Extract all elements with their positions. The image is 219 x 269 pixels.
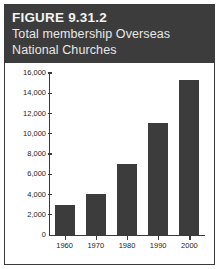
bar-series [49, 73, 205, 235]
y-axis-tick-label: 4,000 [27, 190, 46, 200]
x-axis-tick-mark [96, 236, 97, 240]
x-axis-tick-label: 2000 [169, 241, 209, 251]
y-axis-tick-label: 12,000 [23, 109, 46, 119]
bar [55, 205, 75, 235]
figure-number-label: FIGURE 9.31.2 [12, 10, 214, 26]
x-axis-tick-mark [158, 236, 159, 240]
x-axis-tick-mark [65, 236, 66, 240]
bar [86, 194, 106, 236]
y-axis-tick-label: 8,000 [27, 149, 46, 159]
y-axis-tick-label: 6,000 [27, 169, 46, 179]
x-axis-tick-mark [127, 236, 128, 240]
figure-subtitle: Total membership Overseas National Churc… [12, 27, 214, 58]
x-axis-ticks: 19601970198019902000 [49, 236, 205, 254]
y-axis-tick-label: 10,000 [23, 129, 46, 139]
bar [148, 123, 168, 235]
y-axis-tick-label: 14,000 [23, 88, 46, 98]
figure-header: FIGURE 9.31.2 Total membership Overseas … [5, 5, 214, 63]
bar [117, 164, 137, 235]
y-axis-tick-label: 16,000 [23, 68, 46, 78]
y-axis-tick-label: 0 [42, 230, 46, 240]
bar-chart: 16,00014,00012,00010,0008,0006,0004,0002… [5, 63, 214, 264]
x-axis-tick-mark [189, 236, 190, 240]
y-axis-tick-label: 2,000 [27, 210, 46, 220]
figure-card: FIGURE 9.31.2 Total membership Overseas … [4, 4, 215, 265]
bar [179, 80, 199, 235]
